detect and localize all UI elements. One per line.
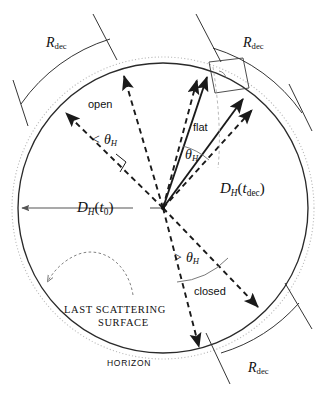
dh-t0-label: DH(t0) (77, 200, 113, 217)
dh-tdec-leader-line (213, 67, 219, 168)
rdec-label-top-left: Rdec (46, 36, 67, 51)
horizon-callout-curved-arrow (48, 252, 133, 295)
closed-angle-label: > θH (173, 251, 199, 266)
observer-center-point (161, 206, 165, 210)
flat-solid-left (163, 77, 207, 208)
last-scattering-surface-label-line2: SURFACE (98, 318, 149, 329)
closed-geometry-ray-pair (163, 208, 258, 347)
diagram-svg (0, 0, 318, 417)
figure-canvas: Rdec Rdec Rdec DH(t0) DH(tdec) < θH θH >… (0, 0, 318, 417)
open-geometry-label: open (88, 99, 112, 110)
rdec-label-bottom-right: Rdec (248, 361, 269, 376)
rdec-label-top-right: Rdec (243, 36, 264, 51)
flat-angle-label: θH (185, 148, 198, 163)
open-angle-tick (116, 154, 126, 172)
open-angle-label: < θH (91, 133, 117, 148)
closed-geometry-label: closed (194, 286, 226, 297)
flat-geometry-label: flat (193, 122, 208, 133)
horizon-label: HORIZON (107, 359, 151, 368)
dh-tdec-label: DH(tdec) (220, 181, 265, 198)
flat-dashed-left (163, 80, 197, 208)
last-scattering-surface-label-line1: LAST SCATTERING (64, 305, 166, 316)
